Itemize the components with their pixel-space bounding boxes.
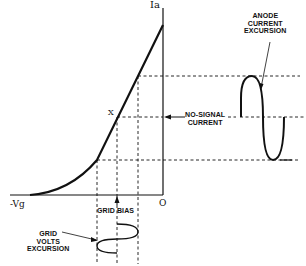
y-axis-label: Ia: [150, 0, 160, 10]
grid-bias-label: GRID BIAS: [97, 207, 134, 215]
characteristic-curve: [30, 25, 163, 195]
origin-label: O: [159, 198, 166, 208]
anode-current-excursion-label: ANODE CURRENT EXCURSION: [244, 12, 287, 35]
transfer-characteristic-diagram: [0, 0, 306, 266]
grid-bias-arrow-head: [115, 196, 120, 203]
no-signal-arrow-head: [164, 115, 171, 120]
anode-current-waveform: [241, 76, 284, 160]
x-axis-label: -Vg: [10, 199, 25, 209]
no-signal-current-label: NO-SIGNAL CURRENT: [185, 111, 225, 126]
anode-excursion-leader: [261, 42, 270, 88]
grid-volts-excursion-label: GRID VOLTS EXCURSION: [27, 230, 70, 253]
operating-point-label: X: [108, 108, 114, 117]
grid-volts-waveform: [97, 224, 138, 253]
